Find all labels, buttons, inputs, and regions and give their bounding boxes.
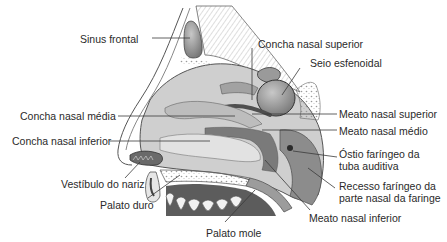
label-ostio-faringeo-line2: tuba auditiva xyxy=(339,160,420,172)
label-recesso-faringeo-line2: parte nasal da faringe xyxy=(339,192,441,204)
label-ostio-faringeo: Óstio faríngeo da tuba auditiva xyxy=(339,148,420,172)
label-concha-nasal-superior: Concha nasal superior xyxy=(258,38,363,50)
label-palato-duro: Palato duro xyxy=(100,199,154,211)
label-concha-nasal-media: Concha nasal média xyxy=(20,110,116,122)
label-ostio-faringeo-line1: Óstio faríngeo da xyxy=(339,148,420,160)
label-palato-mole: Palato mole xyxy=(206,227,261,239)
label-concha-nasal-inferior: Concha nasal inferior xyxy=(12,135,111,147)
pharyngeal-ostium xyxy=(287,145,293,151)
upper-lip xyxy=(146,172,160,202)
label-seio-esfenoidal: Seio esfenoidal xyxy=(310,57,382,69)
nasal-vestibule xyxy=(130,151,163,165)
label-meato-nasal-inferior: Meato nasal inferior xyxy=(309,212,401,224)
label-meato-nasal-superior: Meato nasal superior xyxy=(339,108,437,120)
label-vestibulo-do-nariz: Vestíbulo do nariz xyxy=(61,178,144,190)
label-recesso-faringeo-line1: Recesso faríngeo da xyxy=(339,180,441,192)
label-sinus-frontal: Sinus frontal xyxy=(80,33,138,45)
label-recesso-faringeo: Recesso faríngeo da parte nasal da farin… xyxy=(339,180,441,204)
label-meato-nasal-medio: Meato nasal médio xyxy=(339,125,428,137)
